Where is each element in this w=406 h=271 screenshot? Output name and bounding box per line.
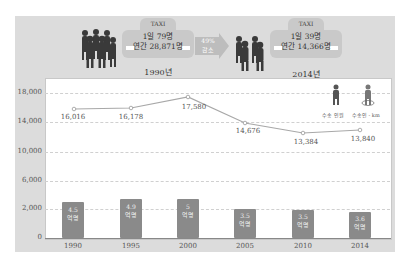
point-label: 13,840: [338, 135, 388, 143]
x-tick: 2010: [283, 242, 323, 250]
x-tick: 1995: [111, 242, 151, 250]
x-tick: 2014: [340, 242, 380, 250]
x-tick: 2005: [225, 242, 265, 250]
legend-label: 수송인 - km: [352, 111, 380, 118]
x-tick: 2000: [168, 242, 208, 250]
person-icon: [330, 84, 342, 106]
person-km-icon: [360, 84, 376, 108]
legend-label: 수송 인원: [322, 111, 344, 118]
x-tick: 1990: [53, 242, 93, 250]
point-label: 16,016: [48, 113, 98, 121]
point-label: 13,384: [281, 138, 331, 146]
point-label: 17,580: [169, 103, 219, 111]
point-label: 16,178: [106, 113, 156, 121]
point-label: 14,676: [223, 127, 273, 135]
